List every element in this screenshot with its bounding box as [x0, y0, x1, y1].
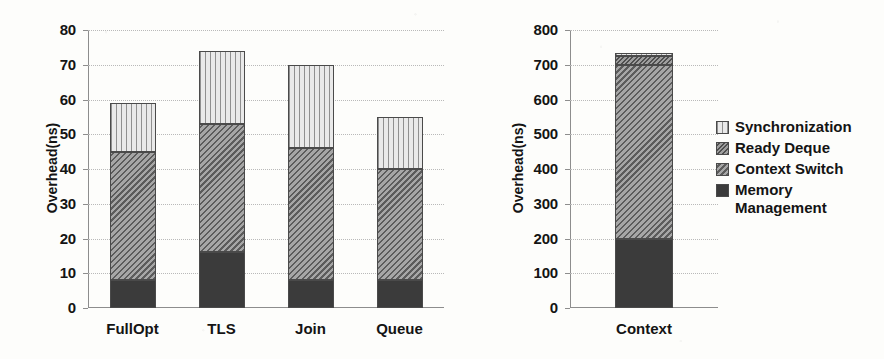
bar-segment-ready-deque[interactable] [615, 56, 673, 65]
y-axis-tick-mark [565, 30, 570, 31]
y-axis-tick-mark [83, 239, 88, 240]
plot-area-right: 0100200300400500600700800Context [570, 30, 718, 308]
chart-left-overhead-ns: Overhead(ns) 01020304050607080FullOptTLS… [0, 0, 470, 359]
bar-tls[interactable] [199, 30, 245, 308]
y-axis-tick-label: 40 [46, 161, 76, 176]
y-axis-tick-label: 70 [46, 57, 76, 72]
y-axis-tick-mark [83, 273, 88, 274]
x-axis-category-label: Join [266, 320, 355, 337]
legend-item-context-switch[interactable]: Context Switch [716, 160, 884, 178]
legend-item-label: Synchronization [735, 118, 852, 136]
x-axis-category-label: TLS [177, 320, 266, 337]
y-axis-tick-mark [565, 134, 570, 135]
legend-item-synchronization[interactable]: Synchronization [716, 118, 884, 136]
y-axis-tick-label: 80 [46, 22, 76, 37]
y-axis-tick-label: 50 [46, 126, 76, 141]
bar-segment-memory-management[interactable] [615, 239, 673, 308]
y-axis-tick-label: 10 [46, 265, 76, 280]
x-axis-category-label: Queue [355, 320, 444, 337]
bar-segment-context-switch[interactable] [288, 148, 334, 280]
y-axis-tick-mark [83, 30, 88, 31]
y-axis-tick-mark [565, 239, 570, 240]
bar-segment-synchronization[interactable] [377, 117, 423, 169]
bar-join[interactable] [288, 30, 334, 308]
bar-segment-memory-management[interactable] [288, 280, 334, 308]
bar-segment-context-switch[interactable] [110, 152, 156, 281]
bar-segment-synchronization[interactable] [199, 51, 245, 124]
y-axis-tick-label: 800 [516, 22, 558, 37]
y-axis-tick-label: 400 [516, 161, 558, 176]
y-axis-tick-label: 100 [516, 265, 558, 280]
y-axis-tick-mark [565, 65, 570, 66]
bar-segment-synchronization[interactable] [110, 103, 156, 152]
legend-item-ready-deque[interactable]: Ready Deque [716, 139, 884, 157]
y-axis-tick-label: 0 [46, 300, 76, 315]
legend-item-memory-management[interactable]: Memory Management [716, 181, 884, 217]
bar-segment-synchronization[interactable] [288, 65, 334, 148]
y-axis-tick-label: 600 [516, 92, 558, 107]
y-axis-tick-label: 60 [46, 92, 76, 107]
legend-swatch-icon [716, 163, 729, 176]
bar-segment-memory-management[interactable] [377, 280, 423, 308]
bar-segment-memory-management[interactable] [110, 280, 156, 308]
x-axis-category-label: FullOpt [88, 320, 177, 337]
y-axis-tick-label: 30 [46, 196, 76, 211]
y-axis-tick-mark [83, 169, 88, 170]
y-axis-tick-mark [565, 204, 570, 205]
y-axis-tick-mark [565, 308, 570, 309]
legend-item-label: Context Switch [735, 160, 843, 178]
bar-segment-synchronization[interactable] [615, 53, 673, 56]
legend-item-label: Memory Management [735, 181, 827, 217]
x-axis-category-label: Context [570, 320, 718, 337]
legend-swatch-icon [716, 121, 729, 134]
legend: SynchronizationReady DequeContext Switch… [716, 118, 884, 220]
y-axis-tick-mark [565, 169, 570, 170]
legend-swatch-icon [716, 142, 729, 155]
y-axis-tick-label: 700 [516, 57, 558, 72]
y-axis-tick-mark [565, 100, 570, 101]
y-axis-tick-mark [83, 65, 88, 66]
y-axis-tick-label: 0 [516, 300, 558, 315]
plot-area-left: 01020304050607080FullOptTLSJoinQueue [88, 30, 444, 308]
y-axis-tick-mark [565, 273, 570, 274]
bar-segment-context-switch[interactable] [199, 124, 245, 253]
legend-swatch-icon [716, 184, 729, 197]
y-axis-tick-label: 500 [516, 126, 558, 141]
y-axis-tick-mark [83, 308, 88, 309]
legend-item-label: Ready Deque [735, 139, 830, 157]
bar-context[interactable] [615, 30, 673, 308]
y-axis-tick-label: 200 [516, 231, 558, 246]
y-axis-tick-mark [83, 100, 88, 101]
bar-segment-memory-management[interactable] [199, 252, 245, 308]
y-axis-tick-mark [83, 134, 88, 135]
bar-queue[interactable] [377, 30, 423, 308]
y-axis-tick-label: 20 [46, 231, 76, 246]
y-axis-tick-label: 300 [516, 196, 558, 211]
y-axis-tick-mark [83, 204, 88, 205]
bar-segment-context-switch[interactable] [615, 65, 673, 239]
bar-fullopt[interactable] [110, 30, 156, 308]
figure-two-stacked-bar-charts: Overhead(ns) 01020304050607080FullOptTLS… [0, 0, 884, 359]
bar-segment-context-switch[interactable] [377, 169, 423, 280]
